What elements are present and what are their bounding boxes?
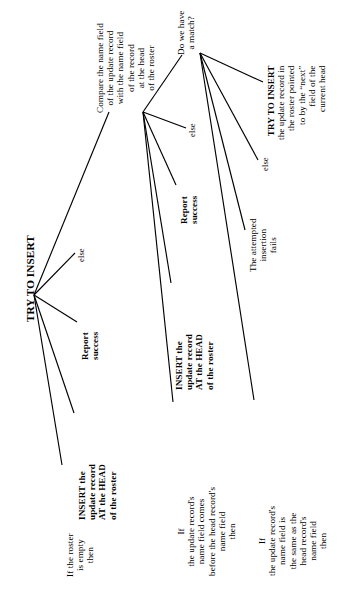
insert-head-second-line-3: AT the HEAD bbox=[194, 334, 204, 390]
node-do-we-have-a-match: Do we have a match? bbox=[176, 11, 196, 55]
insert-head-second-line-2: update record bbox=[184, 334, 194, 390]
insert-head-first-line-4: of the roster bbox=[108, 464, 118, 520]
node-else-compare: else bbox=[188, 123, 198, 137]
node-try-to-insert-next-recursive: TRY TO INSERT the update record in the r… bbox=[266, 66, 327, 140]
try-next-line-4: to by the “next” bbox=[297, 66, 307, 140]
else-root-line-1: else bbox=[77, 248, 87, 262]
else-match-line-1: else bbox=[261, 157, 271, 171]
compare-line-6: of the roster bbox=[146, 23, 156, 113]
node-else-match: else bbox=[261, 157, 271, 171]
insertion-fails-line-1: The attempted bbox=[248, 218, 258, 272]
node-compare-name-fields: Compare the name field of the update rec… bbox=[95, 23, 156, 113]
compare-line-2: of the update record bbox=[105, 23, 115, 113]
if-roster-empty-line-1: If the roster bbox=[65, 533, 75, 577]
node-if-roster-empty: If the roster is empty then bbox=[65, 533, 96, 577]
insert-head-second-line-1: INSERT the bbox=[174, 334, 184, 390]
node-insert-at-head-second: INSERT the update record AT the HEAD of … bbox=[174, 334, 215, 390]
insertion-fails-line-2: insertion bbox=[258, 218, 268, 272]
edge-root-to-report-success bbox=[34, 295, 77, 322]
edge-root-to-else1 bbox=[34, 253, 75, 295]
try-next-line-3: the roster pointed bbox=[286, 66, 296, 140]
if-same-line-4: the same as the bbox=[288, 506, 298, 576]
report-success-first-line-2: success bbox=[90, 332, 100, 360]
insert-head-first-line-2: update record bbox=[87, 464, 97, 520]
diagram-canvas: TRY TO INSERT else Report success INSERT… bbox=[0, 0, 345, 593]
compare-line-3: with the name field bbox=[115, 23, 125, 113]
if-same-line-2: the update record's bbox=[267, 506, 277, 576]
if-before-line-2: the update record's bbox=[186, 487, 196, 576]
match-line-1: Do we have bbox=[176, 11, 186, 55]
insertion-fails-line-3: fails bbox=[268, 218, 278, 272]
report-success-first-line-1: Report bbox=[80, 332, 90, 360]
if-same-line-7: then bbox=[318, 506, 328, 576]
if-before-line-1: If bbox=[176, 487, 186, 576]
if-before-line-4: before the head record's bbox=[207, 487, 217, 576]
node-if-name-comes-before: If the update record's name field comes … bbox=[176, 487, 237, 576]
if-same-line-1: If bbox=[257, 506, 267, 576]
node-else-root: else bbox=[77, 248, 87, 262]
edge-match-to-try-insert-next bbox=[200, 53, 263, 82]
node-insert-at-head-first: INSERT the update record AT the HEAD of … bbox=[77, 464, 118, 520]
report-success-second-line-1: Report bbox=[179, 196, 189, 224]
edge-root-to-if-empty bbox=[34, 295, 62, 465]
if-before-line-6: then bbox=[227, 487, 237, 576]
try-next-line-1: TRY TO INSERT bbox=[266, 66, 276, 140]
insert-head-first-line-3: AT the HEAD bbox=[97, 464, 107, 520]
if-roster-empty-line-2: is empty bbox=[75, 533, 85, 577]
root-line-1: TRY TO INSERT bbox=[24, 235, 37, 322]
if-same-line-5: head record's bbox=[298, 506, 308, 576]
node-try-to-insert-root: TRY TO INSERT bbox=[24, 235, 37, 322]
match-line-2: a match? bbox=[186, 11, 196, 55]
try-next-line-6: current head bbox=[317, 66, 327, 140]
edge-match-to-insertion-fails bbox=[200, 53, 245, 230]
try-next-line-5: field of the bbox=[307, 66, 317, 140]
compare-line-5: at the head bbox=[136, 23, 146, 113]
insert-head-first-line-1: INSERT the bbox=[77, 464, 87, 520]
if-same-line-6: name field bbox=[308, 506, 318, 576]
edge-compare-to-insert-head bbox=[143, 112, 171, 283]
compare-line-1: Compare the name field bbox=[95, 23, 105, 113]
insert-head-second-line-4: of the roster bbox=[205, 334, 215, 390]
node-report-success-first: Report success bbox=[80, 332, 100, 360]
if-before-line-3: name field comes bbox=[196, 487, 206, 576]
else-compare-line-1: else bbox=[188, 123, 198, 137]
if-before-line-5: name field bbox=[217, 487, 227, 576]
edge-compare-to-if-before bbox=[143, 112, 173, 402]
report-success-second-line-2: success bbox=[189, 196, 199, 224]
if-same-line-3: name field is bbox=[277, 506, 287, 576]
try-next-line-2: the update record in bbox=[276, 66, 286, 140]
edge-root-to-insert-head bbox=[34, 295, 74, 413]
node-report-success-second: Report success bbox=[179, 196, 199, 224]
node-attempted-insertion-fails: The attempted insertion fails bbox=[248, 218, 279, 272]
edge-root-to-compare bbox=[34, 112, 109, 295]
compare-line-4: of the record bbox=[126, 23, 136, 113]
if-roster-empty-line-3: then bbox=[85, 533, 95, 577]
node-if-name-same-as-head: If the update record's name field is the… bbox=[257, 506, 328, 576]
